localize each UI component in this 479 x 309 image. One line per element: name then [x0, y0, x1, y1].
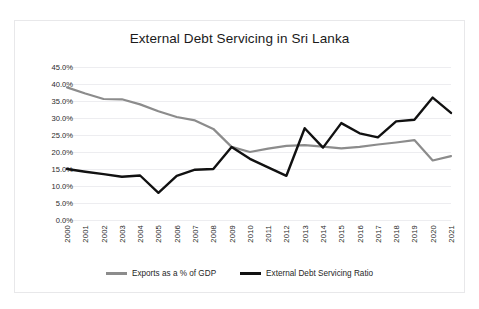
chart-legend: Exports as a % of GDPExternal Debt Servi…	[15, 269, 464, 278]
x-axis-tick-label: 2021	[447, 225, 456, 243]
legend-label: External Debt Servicing Ratio	[266, 269, 373, 278]
x-axis-tick-label: 2000	[63, 225, 72, 243]
x-axis-tick-label: 2015	[337, 225, 346, 243]
x-axis-tick-label: 2010	[246, 225, 255, 243]
legend-label: Exports as a % of GDP	[132, 269, 216, 278]
x-axis-tick-label: 2001	[81, 225, 90, 243]
x-axis-tick-label: 2019	[410, 225, 419, 243]
x-axis-tick-label: 2018	[392, 225, 401, 243]
x-axis-tick-label: 2009	[228, 225, 237, 243]
x-axis-tick-label: 2016	[356, 225, 365, 243]
page-root: External Debt Servicing in Sri Lanka 45.…	[0, 0, 479, 309]
x-axis-tick-label: 2014	[319, 225, 328, 243]
legend-item[interactable]: External Debt Servicing Ratio	[240, 269, 373, 278]
x-axis-tick-label: 2002	[100, 225, 109, 243]
plot-area: 45.0%40.0%35.0%30.0%25.0%20.0%15.0%10.0%…	[15, 21, 466, 294]
x-axis-tick-label: 2003	[118, 225, 127, 243]
x-axis-tick-label: 2004	[136, 225, 145, 243]
x-axis-tick-label: 2011	[264, 225, 273, 242]
x-axis-tick-label: 2007	[191, 225, 200, 243]
legend-color-swatch	[106, 272, 127, 275]
legend-item[interactable]: Exports as a % of GDP	[106, 269, 216, 278]
x-axis-tick-label: 2006	[173, 225, 182, 243]
x-axis: 2000200120022003200420052006200720082009…	[15, 21, 466, 294]
x-axis-tick-label: 2020	[429, 225, 438, 243]
scan-top-artifact-text	[14, 0, 464, 9]
x-axis-tick-label: 2013	[301, 225, 310, 243]
chart-card: External Debt Servicing in Sri Lanka 45.…	[14, 20, 465, 293]
x-axis-tick-label: 2005	[154, 225, 163, 243]
legend-color-swatch	[240, 272, 261, 275]
x-axis-tick-label: 2012	[282, 225, 291, 243]
x-axis-tick-label: 2017	[374, 225, 383, 243]
x-axis-tick-label: 2008	[209, 225, 218, 243]
